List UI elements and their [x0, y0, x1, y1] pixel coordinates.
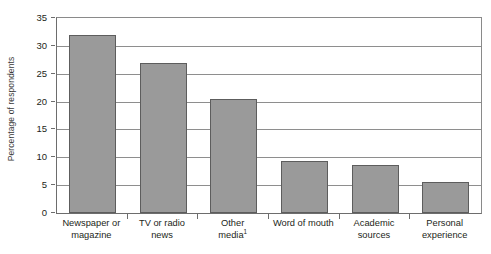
x-axis-label-line: sources	[339, 230, 410, 242]
y-axis-tick-label: 20	[23, 95, 47, 106]
y-axis-tick-mark	[51, 212, 55, 213]
x-axis-category-label: Word of mouth	[268, 218, 339, 230]
gridline	[57, 102, 481, 103]
x-axis-label-line: media1	[197, 230, 268, 242]
y-axis-title-text: Percentage of respondents	[6, 57, 16, 162]
gridline	[57, 157, 481, 158]
y-axis-tick-label: 30	[23, 39, 47, 50]
y-axis-tick-label: 25	[23, 67, 47, 78]
y-axis-tick-mark	[51, 128, 55, 129]
y-axis-tick-label: 15	[23, 123, 47, 134]
x-axis-label-line: Other	[197, 218, 268, 230]
y-axis-tick-label: 5	[23, 179, 47, 190]
y-axis-tick-label: 10	[23, 151, 47, 162]
y-axis-tick-mark	[51, 101, 55, 102]
y-axis-tick-mark	[51, 73, 55, 74]
x-axis-category-label: Othermedia1	[197, 218, 268, 241]
x-axis-label-line: news	[127, 230, 198, 242]
y-axis-tick-label: 0	[23, 207, 47, 218]
bar	[422, 182, 469, 213]
bar	[140, 63, 187, 213]
plot-area	[56, 17, 482, 214]
gridline	[57, 46, 481, 47]
x-axis-label-line: Personal	[409, 218, 480, 230]
x-axis-category-label: Newspaper ormagazine	[56, 218, 127, 241]
bar	[69, 35, 116, 213]
bar-chart: Percentage of respondents 05101520253035…	[0, 0, 491, 254]
y-axis-tick-mark	[51, 156, 55, 157]
x-axis-category-label: Personalexperience	[409, 218, 480, 241]
footnote-marker: 1	[244, 227, 248, 234]
y-axis-title: Percentage of respondents	[0, 0, 22, 218]
x-axis-label-line: Newspaper or	[56, 218, 127, 230]
y-axis-tick-label: 35	[23, 12, 47, 23]
x-axis-label-line: Academic	[339, 218, 410, 230]
bar	[352, 165, 399, 213]
gridline	[57, 74, 481, 75]
y-axis-tick-mark	[51, 184, 55, 185]
gridline	[57, 129, 481, 130]
y-axis-tick-mark	[51, 45, 55, 46]
bar	[210, 99, 257, 213]
bar	[281, 161, 328, 213]
x-axis-label-line: experience	[409, 230, 480, 242]
x-axis-label-line: TV or radio	[127, 218, 198, 230]
gridline	[57, 185, 481, 186]
x-axis-label-line: magazine	[56, 230, 127, 242]
y-axis-tick-mark	[51, 17, 55, 18]
x-axis-category-label: Academicsources	[339, 218, 410, 241]
x-axis-category-label: TV or radionews	[127, 218, 198, 241]
x-axis-label-line: Word of mouth	[268, 218, 339, 230]
